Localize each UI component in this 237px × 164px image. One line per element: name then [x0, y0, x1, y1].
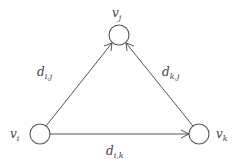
node-vj: [109, 25, 129, 45]
edge-vi-to-vj: [46, 43, 112, 126]
node-vi: [30, 124, 50, 144]
node-label-vk: vk: [216, 127, 228, 143]
edge-label-dij: di,j: [37, 65, 53, 81]
edge-label-dkj: dk,j: [162, 65, 180, 81]
node-vk: [189, 124, 209, 144]
edge-vi-to-vk: [50, 130, 189, 138]
edge-label-dik: di,k: [106, 144, 124, 160]
triangle-graph-diagram: vi vj vk di,j dk,j di,k: [0, 0, 237, 164]
node-label-vi: vi: [10, 127, 20, 143]
node-label-vj: vj: [112, 6, 122, 22]
edge-vk-to-vj: [126, 43, 193, 126]
